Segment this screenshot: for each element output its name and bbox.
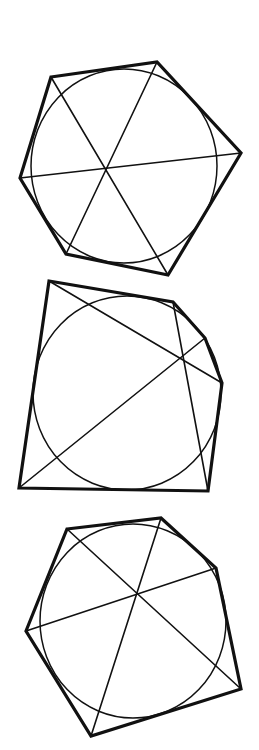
- diagram-canvas: [0, 0, 259, 750]
- diagonal-line: [173, 302, 208, 491]
- diagonals: [20, 62, 241, 275]
- diagonal-line: [20, 153, 241, 178]
- diagonals: [19, 281, 222, 491]
- polygon-outline: [19, 281, 222, 491]
- figure-3-hexagon: [26, 518, 241, 736]
- polygon-outline: [20, 62, 241, 275]
- diagonal-line: [66, 62, 157, 254]
- diagonal-line: [51, 77, 168, 275]
- figure-2-irregular: [19, 281, 222, 491]
- diagonal-line: [91, 518, 161, 736]
- geometry-figures: [0, 0, 259, 750]
- diagonal-line: [19, 338, 205, 488]
- polygon-outline: [26, 518, 241, 736]
- diagonal-line: [26, 568, 216, 631]
- figure-1-hexagon: [20, 62, 241, 275]
